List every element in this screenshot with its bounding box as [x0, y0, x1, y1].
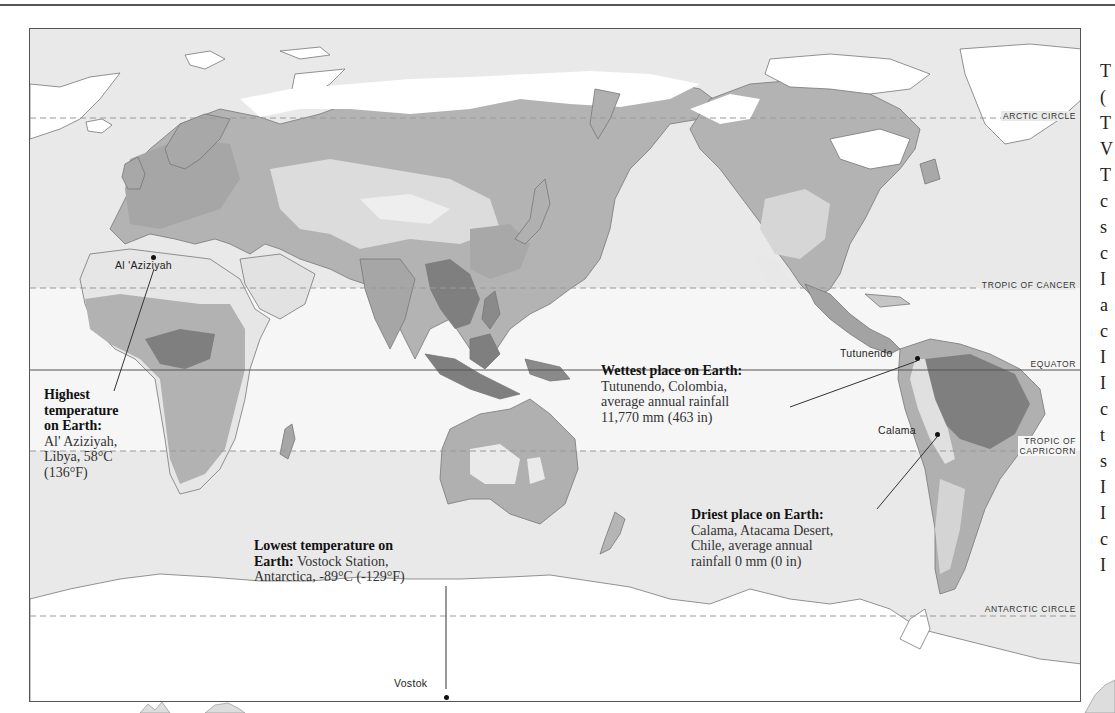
fragment: I	[1100, 370, 1115, 396]
driest-body-1: Calama, Atacama Desert,	[691, 523, 833, 539]
greenland	[960, 44, 1081, 144]
aziziyah-label: Al 'Aziziyah	[115, 259, 172, 271]
highest-temp-body-3: (136°F)	[44, 465, 118, 481]
cropped-text-column: T ( T V T c s c I a c I I c t s I I c I	[1100, 58, 1115, 578]
equator-label: EQUATOR	[1031, 359, 1076, 369]
highest-temp-heading-2: temperature	[44, 403, 118, 418]
wettest-body-2: average annual rainfall	[601, 394, 742, 410]
calama-marker	[935, 432, 940, 437]
tropic-of-capricorn-label-line2: CAPRICORN	[1020, 446, 1076, 456]
fragment: I	[1100, 266, 1115, 292]
iceland	[86, 119, 112, 133]
driest-place-callout: Driest place on Earth: Calama, Atacama D…	[691, 507, 833, 569]
highest-temperature-callout: Highest temperature on Earth: Al' Aziziy…	[44, 387, 118, 480]
fragment: c	[1100, 526, 1115, 552]
fragment: a	[1100, 292, 1115, 318]
highest-temp-body-2: Libya, 58°C	[44, 449, 118, 465]
fragment: c	[1100, 240, 1115, 266]
central-america	[805, 284, 900, 354]
antarctic-circle-label: ANTARCTIC CIRCLE	[983, 604, 1076, 614]
lowest-temp-body-3: Antarctica, -89°C (-129°F)	[254, 569, 405, 585]
tropic-of-capricorn-label-line1: TROPIC OF	[1020, 436, 1076, 446]
world-map: ARCTIC CIRCLE TROPIC OF CANCER EQUATOR T…	[29, 28, 1081, 702]
wettest-place-callout: Wettest place on Earth: Tutunendo, Colom…	[601, 363, 742, 425]
wettest-body-3: 11,770 mm (463 in)	[601, 410, 742, 426]
vostok-label: Vostok	[394, 677, 427, 689]
lowest-temp-body-2: Vostock Station,	[294, 554, 389, 569]
wettest-heading: Wettest place on Earth:	[601, 363, 742, 378]
highest-temp-body-1: Al' Aziziyah,	[44, 434, 118, 450]
lowest-temperature-callout: Lowest temperature on Earth: Vostock Sta…	[254, 538, 405, 585]
fragment: c	[1100, 318, 1115, 344]
tropic-of-cancer-label: TROPIC OF CANCER	[980, 280, 1076, 290]
driest-heading: Driest place on Earth:	[691, 507, 824, 522]
calama-label: Calama	[878, 424, 916, 436]
tutunendo-label: Tutunendo	[840, 347, 893, 359]
fragment: I	[1100, 500, 1115, 526]
new-zealand	[600, 512, 625, 554]
vostok-marker	[444, 695, 449, 700]
highest-temp-heading-1: Highest	[44, 387, 90, 402]
fragment: s	[1100, 214, 1115, 240]
fragment: I	[1100, 344, 1115, 370]
fragment: t	[1100, 422, 1115, 448]
highest-temp-heading-3: on Earth:	[44, 418, 102, 433]
driest-body-3: rainfall 0 mm (0 in)	[691, 554, 833, 570]
fragment: T	[1100, 58, 1115, 84]
fragment: T	[1100, 162, 1115, 188]
map-shapes	[30, 29, 1081, 702]
madagascar	[280, 424, 295, 459]
fragment: c	[1100, 396, 1115, 422]
arctic-circle-label: ARCTIC CIRCLE	[1001, 111, 1076, 121]
tutunendo-leader	[790, 361, 917, 407]
fragment: (	[1100, 84, 1115, 110]
fragment: s	[1100, 448, 1115, 474]
fragment: c	[1100, 188, 1115, 214]
tutunendo-marker	[915, 356, 920, 361]
top-rule	[0, 4, 1115, 6]
fragment: T	[1100, 110, 1115, 136]
lowest-temp-heading-2: Earth:	[254, 554, 294, 569]
fragment: I	[1100, 474, 1115, 500]
fragment: I	[1100, 552, 1115, 578]
driest-body-2: Chile, average annual	[691, 538, 833, 554]
fragment: V	[1100, 136, 1115, 162]
tropic-of-capricorn-label: TROPIC OF CAPRICORN	[1018, 436, 1076, 456]
wettest-body-1: Tutunendo, Colombia,	[601, 379, 742, 395]
lowest-temp-heading-1: Lowest temperature on	[254, 538, 393, 553]
